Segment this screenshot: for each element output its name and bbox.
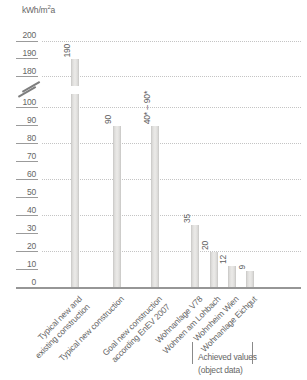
y-axis-tick-line xyxy=(16,125,38,126)
bar xyxy=(228,266,236,288)
axis-break-slash xyxy=(22,81,40,93)
y-axis-tick-line xyxy=(16,76,38,77)
y-axis-tick-line xyxy=(16,233,38,234)
bar-value-label: 35 xyxy=(182,214,192,223)
y-axis-tick-label: 90 xyxy=(2,115,36,125)
bar-value-label: 90 xyxy=(103,115,113,124)
y-axis-tick-line xyxy=(16,179,38,180)
y-axis-tick-label: 40 xyxy=(2,205,36,215)
bracket-annotation-line1: Achieved values xyxy=(198,351,257,364)
bar-value-label: 40* – 90* xyxy=(142,91,152,124)
y-axis-tick-line xyxy=(16,58,38,59)
y-axis-tick-line xyxy=(16,251,38,252)
y-axis-tick-label: 0 xyxy=(2,277,36,287)
y-axis-tick-label: 180 xyxy=(2,66,36,76)
bar-value-label: 20 xyxy=(200,241,210,250)
y-axis-tick-label: 70 xyxy=(2,151,36,161)
y-axis-tick-label: 200 xyxy=(2,30,36,40)
y-axis-tick-label: 50 xyxy=(2,187,36,197)
y-axis-tick-label: 10 xyxy=(2,259,36,269)
y-axis-tick-label: 80 xyxy=(2,133,36,143)
bar xyxy=(113,126,121,288)
bar xyxy=(246,271,254,287)
y-axis-tick-line xyxy=(16,107,38,108)
y-axis-tick-label: 60 xyxy=(2,169,36,179)
bracket-annotation-text: Achieved values (object data) xyxy=(198,351,257,376)
bracket-left-line xyxy=(192,342,193,364)
gridline xyxy=(42,143,301,144)
gridline xyxy=(42,179,301,180)
gridline xyxy=(42,251,301,252)
bar xyxy=(151,126,159,288)
bar-segment xyxy=(71,94,79,288)
bar-chart: kWh/m2a 20019018010090807060504030201001… xyxy=(0,0,307,380)
y-axis-unit-label: kWh/m2a xyxy=(22,4,55,15)
y-axis-tick-line xyxy=(16,215,38,216)
x-axis-baseline xyxy=(16,287,301,289)
bar xyxy=(210,252,218,288)
unit-suffix: a xyxy=(51,5,56,15)
bar-value-label: 190 xyxy=(62,44,72,58)
y-axis-tick-line xyxy=(16,161,38,162)
y-axis-tick-label: 20 xyxy=(2,241,36,251)
unit-prefix: kWh/m xyxy=(22,5,47,15)
bar xyxy=(191,225,199,288)
y-axis-tick-line xyxy=(16,197,38,198)
x-axis-label: Typical new andexisting construction xyxy=(26,294,92,360)
gridline xyxy=(42,76,301,77)
gridline xyxy=(42,107,301,108)
bracket-annotation-line2: (object data) xyxy=(198,364,257,377)
y-axis-tick-label: 100 xyxy=(2,97,36,107)
y-axis-tick-label: 190 xyxy=(2,48,36,58)
bar-value-label: 12 xyxy=(218,255,228,264)
bar-segment xyxy=(71,59,79,86)
y-axis-tick-line xyxy=(16,269,38,270)
y-axis-tick-label: 30 xyxy=(2,223,36,233)
bar-value-label: 9 xyxy=(237,265,247,270)
axis-break-icon xyxy=(15,81,43,97)
gridline xyxy=(42,41,301,42)
y-axis-tick-line xyxy=(16,143,38,144)
y-axis-tick-line xyxy=(16,41,38,42)
gridline xyxy=(42,215,301,216)
